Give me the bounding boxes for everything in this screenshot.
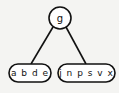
root-node-label: g — [57, 13, 63, 24]
edge-root-right — [66, 27, 86, 64]
leaf-node-right-label: j n p s v x — [58, 68, 114, 78]
leaf-node-right: j n p s v x — [58, 64, 115, 82]
btree-diagram: g a b d e j n p s v x — [0, 0, 119, 93]
leaf-node-left: a b d e — [9, 64, 51, 82]
root-node: g — [49, 7, 71, 29]
leaf-node-left-label: a b d e — [11, 68, 49, 78]
edge-root-left — [31, 27, 53, 64]
